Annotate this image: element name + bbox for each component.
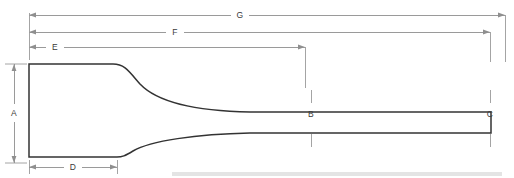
dimension-b-label: B [308,109,314,119]
dimension-f-arrow-right [483,30,490,35]
dimension-d-arrow-right [110,165,117,170]
dimension-d: D [29,160,117,174]
dimension-d-arrow-left [29,165,36,170]
dimension-g: G [29,10,505,62]
dimension-g-arrow-left [29,13,36,18]
dimension-a: A [5,64,27,163]
dimension-a-arrow-top [12,64,17,71]
dimension-g-label: G [237,10,244,20]
dimension-f-label: F [172,27,178,37]
dimension-e-label: E [52,42,58,52]
chisel-profile-outline [29,64,491,157]
dimension-b: B [308,90,314,147]
dimension-drawing-figure: G F E A [0,0,514,178]
dimension-e-arrow-right [298,45,305,50]
dimension-d-label: D [70,162,76,172]
drawing-canvas: G F E A [0,0,514,178]
dimension-c-label: C [487,109,493,119]
dimension-a-label: A [11,108,17,118]
dimension-f-arrow-left [29,30,36,35]
dimension-g-arrow-right [498,13,505,18]
dimension-e-arrow-left [29,45,36,50]
dimension-a-arrow-bottom [12,156,17,163]
baseline-accent-bar [172,172,502,176]
dimension-f: F [29,27,490,62]
dimension-c: C [487,90,493,147]
